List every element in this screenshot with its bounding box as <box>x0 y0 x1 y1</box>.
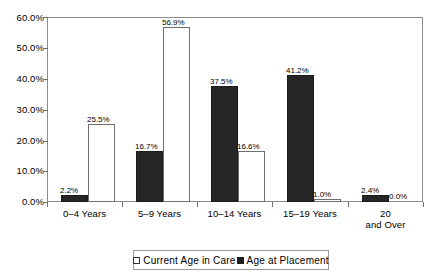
bar-value-current-age-in-care-5-9: 56.9% <box>162 18 185 27</box>
bar-value-age-at-placement-20-over: 2.4% <box>361 186 379 195</box>
bar-current-age-in-care-5-9 <box>163 27 190 202</box>
legend-entry-age-at-placement: Age at Placement <box>237 255 329 266</box>
bar-age-at-placement-15-19 <box>287 75 314 202</box>
y-tick-mark-30 <box>43 110 48 111</box>
bar-value-current-age-in-care-0-4: 25.5% <box>87 115 110 124</box>
x-tick-mark-3 <box>272 202 273 207</box>
x-axis-label-0-4-years: 0–4 Years <box>47 208 122 219</box>
bar-value-age-at-placement-5-9: 16.7% <box>135 142 158 151</box>
y-tick-mark-40 <box>43 79 48 80</box>
y-tick-label-40: 40.0% <box>0 74 44 84</box>
legend-entry-current-age-in-care: Current Age in Care <box>133 255 235 266</box>
x-axis-label-5-9-years: 5–9 Years <box>122 208 197 219</box>
y-tick-label-0: 0.0% <box>0 197 44 207</box>
bar-chart: 60.0% 50.0% 40.0% 30.0% 20.0% 10.0% 0.0%… <box>0 0 442 279</box>
x-tick-mark-2 <box>197 202 198 207</box>
legend-swatch-light-icon <box>133 257 140 264</box>
y-tick-label-60: 60.0% <box>0 13 44 23</box>
bar-current-age-in-care-0-4 <box>88 124 115 202</box>
y-tick-label-20: 20.0% <box>0 136 44 146</box>
bar-age-at-placement-0-4 <box>61 195 88 202</box>
y-tick-label-50: 50.0% <box>0 43 44 53</box>
bar-value-current-age-in-care-20-over: 0.0% <box>389 192 407 201</box>
bar-value-current-age-in-care-15-19: 1.0% <box>313 190 331 199</box>
bar-age-at-placement-5-9 <box>136 151 163 202</box>
y-tick-mark-20 <box>43 141 48 142</box>
y-tick-mark-50 <box>43 48 48 49</box>
legend-label-age-at-placement: Age at Placement <box>247 255 329 266</box>
y-tick-label-30: 30.0% <box>0 105 44 115</box>
bar-value-age-at-placement-15-19: 41.2% <box>286 66 309 75</box>
x-axis-label-20-and-over: 20 and Over <box>348 208 423 230</box>
x-tick-mark-5 <box>423 202 424 207</box>
x-axis-label-10-14-years: 10–14 Years <box>197 208 272 219</box>
legend-label-current-age-in-care: Current Age in Care <box>143 255 235 266</box>
bar-value-age-at-placement-10-14: 37.5% <box>210 77 233 86</box>
y-tick-mark-10 <box>43 171 48 172</box>
y-axis: 60.0% 50.0% 40.0% 30.0% 20.0% 10.0% 0.0% <box>0 0 44 279</box>
bar-value-age-at-placement-0-4: 2.2% <box>60 186 78 195</box>
x-tick-mark-0 <box>47 202 48 207</box>
legend-swatch-dark-icon <box>237 257 244 264</box>
x-axis-label-15-19-years: 15–19 Years <box>272 208 348 219</box>
bar-age-at-placement-20-over <box>362 195 389 202</box>
y-tick-mark-60 <box>43 17 48 18</box>
y-tick-label-10: 10.0% <box>0 166 44 176</box>
bar-age-at-placement-10-14 <box>211 86 238 202</box>
bar-current-age-in-care-10-14 <box>238 151 265 202</box>
x-tick-mark-1 <box>122 202 123 207</box>
bar-value-current-age-in-care-10-14: 16.6% <box>237 142 260 151</box>
x-tick-mark-4 <box>348 202 349 207</box>
bar-current-age-in-care-15-19 <box>314 199 341 202</box>
chart-legend: Current Age in Care Age at Placement <box>133 250 329 270</box>
